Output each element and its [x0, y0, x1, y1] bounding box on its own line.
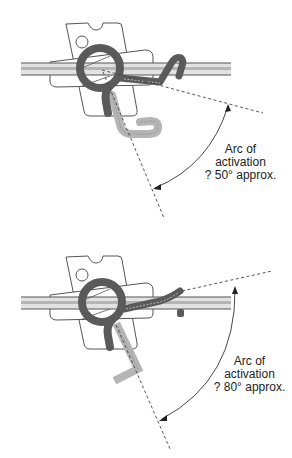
spring-leg-lower: [108, 320, 113, 347]
arc-arrowhead-top: [232, 286, 238, 294]
torsion-spring-illustration-50: [0, 0, 292, 229]
spring-end-tab: [177, 309, 184, 317]
arc-label-line3: ? 80° approx.: [207, 381, 292, 394]
diagram-80-degree: Arc of activation ? 80° approx.: [0, 229, 292, 458]
spring-leg-lower: [106, 86, 111, 113]
arc-arrowhead-top: [225, 104, 231, 112]
rest-reference-line: [182, 271, 272, 291]
arc-arrowhead-bottom: [153, 184, 161, 190]
arc-arrowhead-bottom: [159, 415, 167, 421]
rod: [21, 63, 231, 75]
plate-hole: [76, 36, 88, 48]
plate-hole: [76, 269, 88, 281]
diagram-50-degree: Arc of activation ? 50° approx.: [0, 0, 292, 229]
torsion-spring-illustration-80: [0, 229, 292, 458]
arc-label: Arc of activation ? 50° approx.: [193, 143, 288, 182]
arc-label-line3: ? 50° approx.: [193, 169, 288, 182]
arc-label: Arc of activation ? 80° approx.: [207, 355, 292, 394]
